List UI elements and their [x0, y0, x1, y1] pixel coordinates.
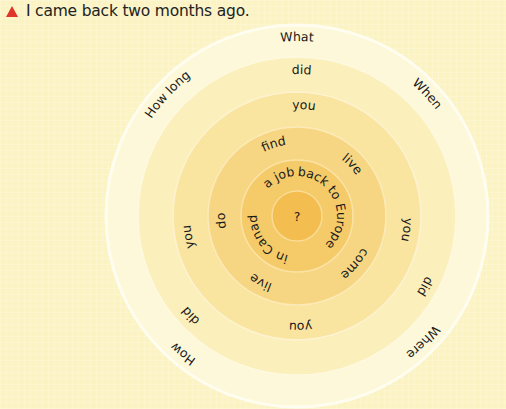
center-question-mark: ?	[294, 209, 301, 224]
question-wheel: What When Where How How long did did did…	[0, 0, 506, 409]
word-you-top: you	[292, 97, 316, 113]
word-you-bottom: you	[289, 319, 313, 335]
word-did-top: did	[292, 62, 312, 78]
word-you-right: you	[398, 218, 416, 243]
